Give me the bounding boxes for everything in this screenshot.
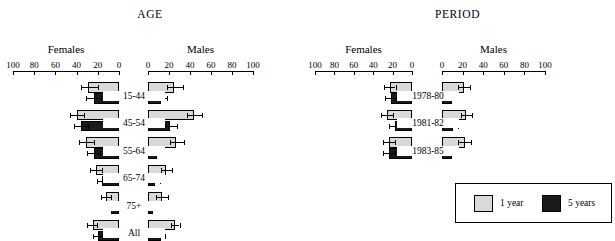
error-cap (156, 195, 157, 200)
axis-tick-label-males: 100 (533, 60, 557, 70)
error-cap (100, 151, 101, 156)
chart-title-age: AGE (0, 8, 300, 20)
error-cap (101, 96, 102, 101)
axis-tick-females (13, 71, 14, 75)
error-cap (87, 151, 88, 156)
sex-label-males: Males (161, 43, 241, 55)
axis-tick-females (373, 71, 374, 75)
error-cap (396, 85, 397, 90)
error-bar-females (81, 87, 98, 88)
error-cap (171, 223, 172, 228)
axis-tick-males (211, 71, 212, 75)
axis-tick-label-males: 100 (241, 60, 265, 70)
category-label: 45-54 (103, 118, 165, 128)
error-bar-males (458, 87, 469, 88)
axis-line (315, 71, 412, 72)
axis-tick-males (148, 71, 149, 75)
axis-line (148, 71, 253, 72)
error-bar-females (70, 115, 84, 116)
error-cap (94, 140, 95, 145)
axis-tick-females (98, 71, 99, 75)
error-bar-males (458, 142, 470, 143)
error-cap (87, 223, 88, 228)
category-label: 65-74 (103, 173, 165, 183)
axis-tick-males (190, 71, 191, 75)
error-bar-females (79, 142, 94, 143)
error-bar-females (381, 115, 393, 116)
legend-swatch-1-year (474, 195, 493, 212)
axis-tick-males (545, 71, 546, 75)
axis-tick-males (463, 71, 464, 75)
error-cap (93, 234, 94, 239)
axis-tick-label-females: 0 (400, 60, 424, 70)
error-cap (88, 124, 89, 129)
legend-label-1-year: 1 year (500, 198, 523, 208)
error-cap (98, 85, 99, 90)
error-cap (70, 113, 71, 118)
error-cap (90, 168, 91, 173)
axis-tick-females (315, 71, 316, 75)
error-bar-females (383, 153, 395, 154)
sex-label-females: Females (324, 43, 404, 55)
error-cap (168, 195, 169, 200)
error-cap (74, 124, 75, 129)
error-bar-females (383, 142, 395, 143)
error-cap (97, 223, 98, 228)
error-cap (187, 113, 188, 118)
axis-tick-females (354, 71, 355, 75)
error-bar-females (74, 126, 88, 127)
category-label: 1978-80 (397, 91, 459, 101)
category-label: All (103, 228, 165, 238)
axis-tick-males (504, 71, 505, 75)
axis-tick-females (393, 71, 394, 75)
axis-tick-males (483, 71, 484, 75)
error-cap (384, 85, 385, 90)
error-cap (177, 124, 178, 129)
error-bar-males (187, 115, 202, 116)
error-bar-females (101, 197, 111, 198)
axis-tick-females (77, 71, 78, 75)
axis-tick-females (34, 71, 35, 75)
axis-tick-males (253, 71, 254, 75)
error-bar-males (170, 142, 184, 143)
error-cap (84, 113, 85, 118)
error-cap (471, 140, 472, 145)
chart-panel-age: AGE 100806040200Females020406080100Males… (0, 0, 300, 240)
error-bar-females (385, 98, 397, 99)
category-label: 15-44 (103, 91, 165, 101)
category-label: 1983-85 (397, 146, 459, 156)
error-cap (458, 85, 459, 90)
error-cap (167, 85, 168, 90)
category-label: 1981-82 (397, 118, 459, 128)
error-cap (202, 113, 203, 118)
error-bar-males (167, 87, 183, 88)
legend-swatch-5-years (542, 195, 561, 212)
error-cap (393, 113, 394, 118)
error-cap (385, 96, 386, 101)
error-cap (389, 124, 390, 129)
error-cap (395, 140, 396, 145)
error-cap (381, 113, 382, 118)
legend-label-5-years: 5 years (568, 198, 595, 208)
error-cap (470, 85, 471, 90)
error-cap (102, 168, 103, 173)
error-cap (395, 151, 396, 156)
error-cap (383, 151, 384, 156)
error-cap (172, 168, 173, 173)
error-bar-males (165, 126, 178, 127)
error-bar-males (161, 170, 173, 171)
chart-title-period: PERIOD (300, 8, 615, 20)
error-bar-females (87, 153, 100, 154)
error-bar-females (93, 236, 103, 237)
error-bar-females (87, 225, 97, 226)
axis-tick-females (412, 71, 413, 75)
error-bar-females (384, 87, 396, 88)
axis-line (442, 71, 545, 72)
axis-tick-males (232, 71, 233, 75)
error-cap (184, 140, 185, 145)
error-bar-males (156, 197, 168, 198)
error-cap (472, 113, 473, 118)
error-cap (86, 96, 87, 101)
error-bar-females (86, 98, 101, 99)
